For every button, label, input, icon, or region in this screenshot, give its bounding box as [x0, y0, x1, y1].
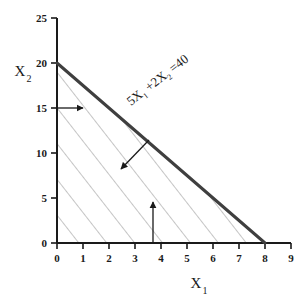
y-axis-title: X 2: [15, 63, 32, 84]
x-tick-label-3: 3: [132, 252, 138, 264]
x-tick-label-0: 0: [54, 252, 60, 264]
y-tick-label-10: 10: [36, 147, 48, 159]
x-axis-title-sub: 1: [203, 285, 208, 296]
y-tick-label-15: 15: [36, 102, 48, 114]
x-axis-tick-labels: 0 1 2 3 4 5 6 7 8 9: [54, 252, 294, 264]
x-tick-label-4: 4: [158, 252, 164, 264]
chart-container: 0 5 10 15 20 25 0 1 2 3 4 5 6: [0, 0, 303, 303]
x-axis-title: X 1: [191, 275, 208, 296]
equation-text: 5X1 +2X2 =40: [124, 51, 193, 110]
constraint-plot-svg: 0 5 10 15 20 25 0 1 2 3 4 5 6: [0, 0, 303, 303]
y-tick-label-20: 20: [36, 57, 48, 69]
x-tick-label-7: 7: [236, 252, 242, 264]
x-tick-label-2: 2: [106, 252, 112, 264]
x-tick-label-1: 1: [80, 252, 86, 264]
y-axis-title-sub: 2: [27, 73, 32, 84]
x-axis-title-main: X: [191, 275, 202, 291]
y-tick-label-5: 5: [42, 192, 48, 204]
x-tick-label-5: 5: [184, 252, 190, 264]
x-tick-label-6: 6: [210, 252, 216, 264]
y-axis-tick-labels: 0 5 10 15 20 25: [36, 12, 48, 249]
x-tick-label-8: 8: [262, 252, 268, 264]
y-tick-label-25: 25: [36, 12, 48, 24]
y-axis-title-main: X: [15, 63, 26, 79]
y-tick-label-0: 0: [42, 237, 48, 249]
x-tick-label-9: 9: [288, 252, 294, 264]
constraint-equation-label: 5X1 +2X2 =40: [124, 51, 193, 110]
